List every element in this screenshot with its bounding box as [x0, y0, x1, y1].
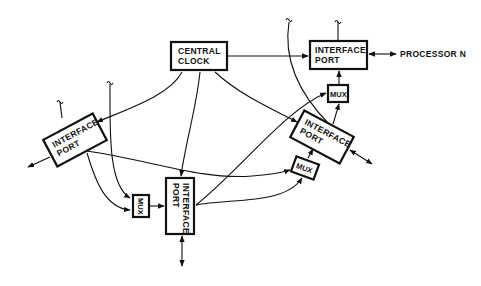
mux-right: MUX: [291, 156, 319, 179]
mux-bottom-left-label: MUX: [136, 198, 145, 215]
mux-right-to-port-right: [308, 149, 313, 158]
central-clock-block: CENTRAL CLOCK: [171, 42, 227, 70]
antenna-tip-icon: [286, 19, 292, 22]
clock-to-port-bottom: [181, 72, 200, 176]
interface-port-bottom: INTERFACE PORT: [166, 178, 194, 234]
interface-port-right: INTERFACE PORT: [290, 111, 354, 164]
port-left-external: [28, 157, 50, 167]
antenna-tip-icon: [107, 82, 113, 85]
central-clock-label-1: CENTRAL: [178, 46, 221, 56]
mux-bottom-left: MUX: [133, 195, 149, 217]
clock-to-port-right: [215, 72, 297, 122]
port-bottom-label-1: INTERFACE: [181, 183, 191, 234]
port-bottom-to-mux-top-right: [196, 93, 326, 205]
mux-top-right-label: MUX: [330, 90, 347, 99]
interface-port-left: INTERFACE PORT: [43, 113, 107, 166]
antenna-port-left: [60, 102, 62, 118]
central-clock-label-2: CLOCK: [178, 56, 210, 66]
line-top-to-port-right: [288, 22, 330, 125]
line-top-to-mux-bottom-left: [110, 84, 130, 198]
mux-top-right: MUX: [328, 85, 348, 102]
processor-n-label: PROCESSOR N: [400, 49, 466, 59]
port-right-to-mux: [333, 104, 339, 124]
port-left-to-mux: [87, 153, 130, 210]
port-top-right-label-1: INTERFACE: [315, 45, 366, 55]
interface-port-top-right: INTERFACE PORT: [310, 41, 367, 69]
antenna-tip-icon: [335, 21, 341, 24]
antenna-tip-icon: [57, 101, 63, 104]
port-top-right-label-2: PORT: [315, 55, 340, 65]
port-right-external: [350, 150, 372, 164]
port-bottom-label-2: PORT: [171, 183, 181, 208]
port-left-to-mux-right: [87, 151, 290, 177]
distributed-clock-diagram: CENTRAL CLOCK INTERFACE PORT PROCESSOR N…: [0, 0, 481, 286]
